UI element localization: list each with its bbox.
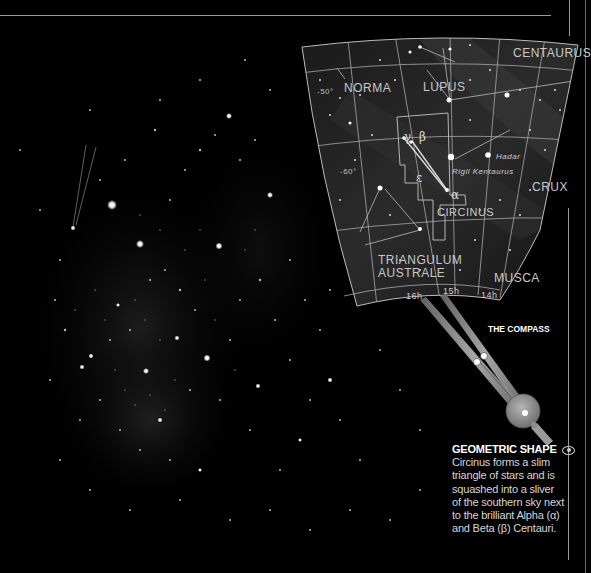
caption-title: GEOMETRIC SHAPE — [452, 443, 575, 455]
caption-title-text: GEOMETRIC SHAPE — [452, 443, 557, 455]
caption-body: Circinus forms a slim triangle of stars … — [452, 456, 564, 536]
compass-label: THE COMPASS — [488, 324, 550, 334]
eye-icon — [562, 446, 575, 455]
